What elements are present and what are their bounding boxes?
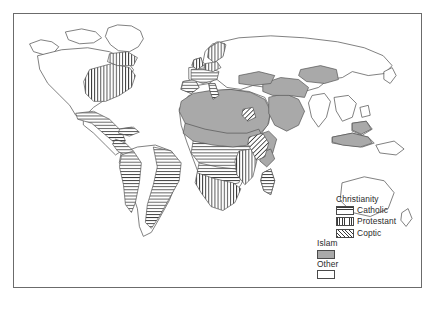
region-madagascar-catholic: [261, 169, 275, 195]
legend-swatch-protestant: [336, 217, 354, 226]
legend-label-catholic: Catholic: [357, 206, 388, 215]
legend-item-islam[interactable]: [317, 249, 422, 260]
landmass-greenland: [106, 25, 144, 52]
landmass-southeast-asia: [334, 95, 356, 121]
region-eastern-usa-protestant: [84, 64, 136, 102]
legend-label-protestant: Protestant: [357, 217, 396, 226]
legend-swatch-catholic: [336, 206, 354, 215]
region-indonesia-islam: [332, 133, 372, 147]
legend-label-islam: Islam: [317, 239, 422, 248]
map-frame: Christianity Catholic Protestant Coptic …: [13, 13, 422, 288]
landmass-new-guinea: [376, 141, 404, 155]
legend-item-protestant[interactable]: Protestant: [317, 216, 422, 227]
legend-swatch-other: [317, 270, 335, 279]
region-canada-east-protestant: [108, 52, 138, 66]
landmass-philippines: [360, 105, 370, 117]
region-arabia-islam: [269, 93, 305, 131]
legend-swatch-islam: [317, 250, 335, 259]
legend-item-other[interactable]: [317, 269, 422, 280]
legend-label-coptic: Coptic: [357, 229, 381, 238]
legend-item-catholic[interactable]: Catholic: [317, 205, 422, 216]
legend-label-other: Other: [317, 260, 422, 269]
map-legend: Christianity Catholic Protestant Coptic …: [317, 195, 422, 281]
landmass-arctic-islands: [66, 29, 102, 44]
legend-heading-christianity: Christianity: [336, 195, 422, 204]
legend-swatch-coptic: [336, 229, 354, 238]
world-religions-map-figure: Christianity Catholic Protestant Coptic …: [0, 0, 436, 309]
landmass-india: [309, 93, 331, 127]
legend-item-coptic[interactable]: Coptic: [317, 228, 422, 239]
